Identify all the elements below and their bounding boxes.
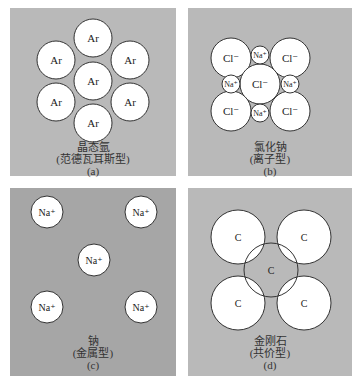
carbon-label: C [301,232,308,243]
chloride-label: Cl⁻ [282,52,298,64]
sodium-ion-label: Na⁺ [224,80,238,89]
panel-diamond: C C C C C 金刚石 (共价型) (d) [188,188,352,376]
caption-title: 金刚石 [188,335,352,347]
panel-sodium-metal: Na⁺ Na⁺ Na⁺ Na⁺ Na⁺ 钠 (金属型) (c) [10,188,176,376]
sodium-ion-label: Na⁺ [39,207,56,218]
sodium-ion-label: Na⁺ [253,109,267,118]
sodium-ion-label: Na⁺ [133,302,150,313]
caption-subtitle: (范德瓦耳斯型) [10,153,176,165]
atom-label: Ar [87,75,99,87]
caption-subtitle: (离子型) [188,153,352,165]
caption-tag: (a) [10,165,176,177]
panel-argon: Ar Ar Ar Ar Ar Ar Ar 晶态氩 (范德瓦耳斯型) (a) [10,8,176,176]
atom-label: Ar [87,117,99,129]
atom-label: Ar [50,54,62,66]
chloride-label: Cl⁻ [223,105,239,117]
sodium-ion-label: Na⁺ [39,302,56,313]
caption-title: 钠 [10,335,176,347]
carbon-label: C [268,265,275,276]
atom-label: Ar [124,54,136,66]
atom-label: Ar [50,96,62,108]
carbon-label: C [301,298,308,309]
carbon-label: C [235,232,242,243]
caption-title: 晶态氩 [10,141,176,153]
sodium-ion-label: Na⁺ [253,51,267,60]
atom-label: Ar [87,32,99,44]
carbon-label: C [235,298,242,309]
chloride-label: Cl⁻ [252,78,268,90]
caption-tag: (d) [188,359,352,371]
caption-tag: (c) [10,359,176,371]
chloride-label: Cl⁻ [282,105,298,117]
caption-title: 氯化钠 [188,141,352,153]
caption-tag: (b) [188,165,352,177]
sodium-ion-label: Na⁺ [133,207,150,218]
sodium-ion-label: Na⁺ [283,80,297,89]
caption-subtitle: (金属型) [10,347,176,359]
sodium-ion-label: Na⁺ [86,255,103,266]
atom-label: Ar [124,96,136,108]
caption-subtitle: (共价型) [188,347,352,359]
panel-sodium-chloride: Cl⁻ Cl⁻ Cl⁻ Cl⁻ Cl⁻ Na⁺ Na⁺ Na⁺ Na⁺ 氯化钠 … [188,8,352,176]
chloride-label: Cl⁻ [223,52,239,64]
